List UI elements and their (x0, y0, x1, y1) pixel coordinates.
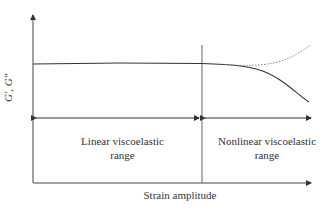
linear-label-line1: Linear viscoelastic (55, 134, 190, 148)
diagram-canvas (0, 0, 331, 212)
g-prime-curve (225, 65, 309, 103)
g-double-prime-curve (225, 45, 311, 65)
nonlinear-label-line1: Nonlinear viscoelastic (208, 134, 326, 148)
y-axis-label: G′, G″ (2, 74, 14, 102)
linear-label-line2: range (55, 148, 190, 162)
nonlinear-label-line2: range (208, 148, 326, 162)
plateau-line (33, 63, 225, 65)
nonlinear-range-label: Nonlinear viscoelastic range (208, 134, 326, 162)
x-axis-label: Strain amplitude (110, 188, 250, 202)
linear-range-label: Linear viscoelastic range (55, 134, 190, 162)
